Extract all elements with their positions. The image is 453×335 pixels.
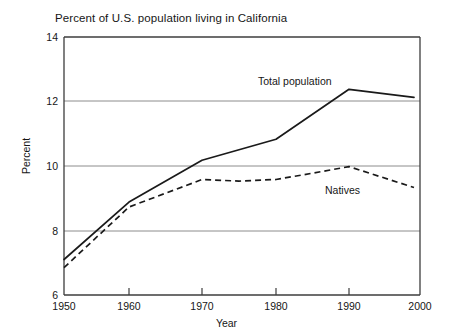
plot-area [0, 0, 453, 335]
chart-figure: Percent of U.S. population living in Cal… [0, 0, 453, 335]
series-line-total-population [64, 89, 414, 259]
x-axis-ticks [129, 288, 349, 295]
series-line-natives [64, 167, 414, 268]
